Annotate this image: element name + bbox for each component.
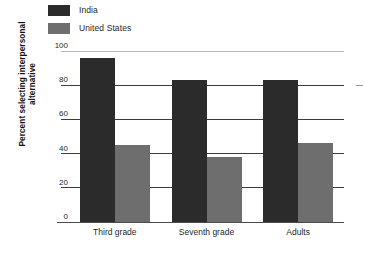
legend-item-united-states: United States xyxy=(48,21,131,36)
y-axis-title-line2: alternative xyxy=(28,63,37,105)
legend-label-united-states: United States xyxy=(79,23,131,34)
chart-legend: India United States xyxy=(48,3,131,39)
right-edge-tick-icon xyxy=(356,85,363,86)
legend-swatch-india xyxy=(48,5,70,16)
bar-united-states-adults xyxy=(298,143,333,222)
bar-chart: India United States Percent selecting in… xyxy=(0,0,365,254)
legend-item-india: India xyxy=(48,3,131,18)
y-axis-title-line1: Percent selecting interpersonal xyxy=(18,21,27,146)
plot-area: Third gradeSeventh gradeAdults xyxy=(69,51,344,222)
y-axis-title: Percent selecting interpersonal alternat… xyxy=(18,0,38,174)
x-axis-label-seventh-grade: Seventh grade xyxy=(161,227,253,237)
y-tick-label-80: 80 xyxy=(38,75,68,84)
y-tick-label-20: 20 xyxy=(38,178,68,187)
bar-united-states-seventh-grade xyxy=(207,157,242,222)
x-axis-label-third-grade: Third grade xyxy=(69,227,161,237)
x-axis-label-adults: Adults xyxy=(252,227,344,237)
bar-india-adults xyxy=(263,80,298,222)
bar-united-states-third-grade xyxy=(115,145,150,222)
y-tick-label-40: 40 xyxy=(38,144,68,153)
y-tick-label-100: 100 xyxy=(38,41,68,50)
y-axis-tick-labels: 020406080100 xyxy=(38,51,68,222)
legend-label-india: India xyxy=(79,5,98,16)
y-tick-label-0: 0 xyxy=(38,212,68,221)
bar-india-seventh-grade xyxy=(172,80,207,222)
bar-india-third-grade xyxy=(80,58,115,222)
gridline-100 xyxy=(61,51,344,52)
legend-swatch-united-states xyxy=(48,23,70,34)
y-tick-label-60: 60 xyxy=(38,109,68,118)
